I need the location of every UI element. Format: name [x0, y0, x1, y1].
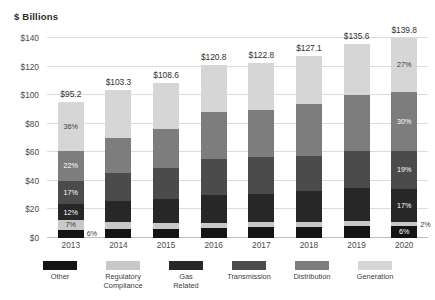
segment-percent-label: 17%	[397, 202, 411, 209]
segment-percent-label: 6%	[399, 228, 409, 235]
bar-segment[interactable]: 27%	[391, 38, 417, 91]
segment-percent-label: 27%	[397, 61, 411, 68]
bar-segment[interactable]	[201, 159, 227, 195]
x-axis-tick-label: 2016	[204, 240, 222, 250]
bar-segment[interactable]	[153, 229, 179, 238]
legend-label: Generation	[357, 273, 394, 282]
y-axis-tick-label: $140	[21, 33, 39, 43]
bar-segment[interactable]	[344, 188, 370, 221]
x-axis-tick-label: 2013	[62, 240, 80, 250]
legend-swatch	[43, 261, 77, 270]
legend-item[interactable]: Distribution	[281, 261, 344, 290]
bar-segment[interactable]	[344, 44, 370, 94]
legend-label: Gas Related	[173, 273, 198, 290]
plot-area: 6%7%12%17%22%36%$95.2$103.3$108.6$120.8$…	[47, 38, 428, 238]
bar-total-label: $120.8	[201, 52, 227, 62]
bar-total-label: $122.8	[249, 50, 275, 60]
bar-segment[interactable]	[296, 56, 322, 103]
y-axis-tick-label: $40	[25, 176, 39, 186]
bar-segment[interactable]: 6%	[391, 226, 417, 238]
bar-segment[interactable]	[296, 191, 322, 222]
bar-segment[interactable]: 19%	[391, 151, 417, 189]
bar-total-label: $127.1	[296, 43, 322, 53]
bar-column[interactable]: $127.1	[296, 56, 322, 238]
bar-segment[interactable]: 17%	[391, 189, 417, 223]
bar-segment[interactable]	[296, 156, 322, 190]
legend-swatch	[232, 261, 266, 270]
legend-item[interactable]: Gas Related	[155, 261, 218, 290]
legend-label: Distribution	[294, 273, 331, 282]
bar-segment[interactable]: 7%	[58, 220, 84, 230]
bar-segment[interactable]: 30%	[391, 92, 417, 151]
y-axis-tick-label: $20	[25, 204, 39, 214]
bar-total-label: $135.6	[344, 31, 370, 41]
legend-label: Regulatory Compliance	[103, 273, 142, 290]
bar-column[interactable]: $120.8	[201, 65, 227, 238]
x-axis-tick-label: 2017	[252, 240, 270, 250]
bar-column[interactable]: $135.6	[344, 44, 370, 238]
bar-segment[interactable]	[344, 221, 370, 227]
y-axis-tick-label: $60	[25, 147, 39, 157]
bar-column[interactable]: 6%7%12%17%22%36%$95.2	[58, 102, 84, 238]
legend-label: Other	[51, 273, 69, 282]
bar-total-label: $103.3	[106, 77, 132, 87]
bar-segment[interactable]: 12%	[58, 204, 84, 220]
x-axis-tick-label: 2018	[300, 240, 318, 250]
bar-column[interactable]: $103.3	[105, 90, 131, 238]
bar-total-label: $108.6	[153, 70, 179, 80]
bar-total-label: $95.2	[60, 89, 81, 99]
bar-segment[interactable]	[296, 222, 322, 227]
bar-segment[interactable]	[105, 90, 131, 137]
bar-segment[interactable]	[248, 63, 274, 110]
bar-segment[interactable]	[248, 222, 274, 227]
bar-segment[interactable]: 2%	[391, 222, 417, 226]
bar-segment[interactable]	[153, 83, 179, 130]
bar-segment[interactable]	[296, 104, 322, 157]
legend-swatch	[169, 261, 203, 270]
bar-segment[interactable]	[153, 168, 179, 199]
bar-segment[interactable]	[248, 110, 274, 157]
bar-segment[interactable]	[201, 195, 227, 223]
segment-percent-label: 6%	[87, 230, 97, 237]
bar-segment[interactable]	[296, 227, 322, 238]
bar-segment[interactable]: 17%	[58, 181, 84, 204]
bar-segment[interactable]	[201, 112, 227, 159]
bar-column[interactable]: $108.6	[153, 83, 179, 238]
y-axis-tick-label: $0	[30, 233, 39, 243]
x-axis-tick-label: 2019	[347, 240, 365, 250]
bar-segment[interactable]: 6%	[58, 230, 84, 238]
bar-segment[interactable]: 22%	[58, 151, 84, 181]
bar-segment[interactable]	[248, 194, 274, 222]
legend-item[interactable]: Transmission	[218, 261, 281, 290]
y-axis-tick-label: $120	[21, 62, 39, 72]
bar-segment[interactable]	[201, 228, 227, 238]
x-axis-tick-label: 2020	[395, 240, 413, 250]
segment-percent-label: 12%	[64, 209, 78, 216]
bar-segment[interactable]	[153, 129, 179, 168]
bar-segment[interactable]	[248, 227, 274, 238]
bar-series-container: 6%7%12%17%22%36%$95.2$103.3$108.6$120.8$…	[47, 38, 428, 238]
bar-segment[interactable]	[105, 229, 131, 238]
bar-segment[interactable]	[201, 65, 227, 112]
bar-segment[interactable]	[153, 199, 179, 222]
bar-segment[interactable]	[248, 157, 274, 194]
bar-segment[interactable]	[344, 95, 370, 151]
legend-item[interactable]: Other	[29, 261, 92, 290]
segment-percent-label: 36%	[64, 123, 78, 130]
legend-item[interactable]: Regulatory Compliance	[92, 261, 155, 290]
bar-segment[interactable]	[105, 201, 131, 222]
bar-column[interactable]: $122.8	[248, 63, 274, 238]
bar-segment[interactable]	[344, 226, 370, 238]
legend-swatch	[358, 261, 392, 270]
bar-segment[interactable]	[105, 222, 131, 229]
bar-segment[interactable]: 36%	[58, 102, 84, 151]
bar-segment[interactable]	[105, 138, 131, 173]
bar-segment[interactable]	[344, 151, 370, 188]
chart-legend: OtherRegulatory ComplianceGas RelatedTra…	[0, 261, 435, 290]
chart-axis-title: $ Billions	[14, 11, 58, 22]
legend-item[interactable]: Generation	[344, 261, 407, 290]
bar-segment[interactable]	[201, 223, 227, 228]
bar-segment[interactable]	[153, 223, 179, 229]
bar-column[interactable]: 6%2%17%19%30%27%$139.8	[391, 38, 417, 238]
bar-segment[interactable]	[105, 173, 131, 201]
